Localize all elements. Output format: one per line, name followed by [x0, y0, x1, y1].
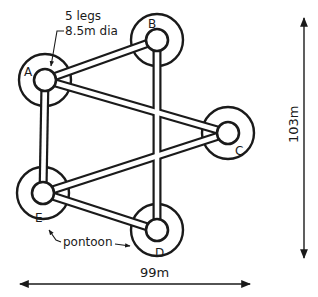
leg-label-c: C — [235, 144, 243, 158]
pontoon-leader-left — [49, 230, 61, 242]
leg-label-b: B — [148, 17, 156, 31]
width-dimension-label: 99m — [140, 265, 169, 280]
leg-b — [146, 29, 168, 51]
leg-d — [146, 219, 168, 241]
height-dimension-label: 103m — [286, 106, 301, 143]
leg-c — [217, 122, 239, 144]
annotation-dia: 8.5m dia — [65, 24, 118, 38]
leg-label-a: A — [24, 65, 33, 79]
platform-diagram: A B C D E 5 legs 8.5m dia pontoon 99m 10… — [0, 0, 318, 297]
annotation-legs: 5 legs — [65, 9, 101, 23]
braces-fill — [43, 40, 228, 230]
leg-label-d: D — [155, 246, 164, 260]
leg-a — [34, 69, 56, 91]
leg-label-e: E — [35, 211, 43, 225]
pontoon-label: pontoon — [63, 235, 113, 249]
pontoon-leader-right — [115, 244, 130, 246]
leg-e — [32, 182, 54, 204]
